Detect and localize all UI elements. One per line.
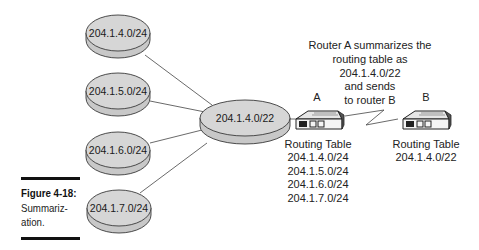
summary-annotation: Router A summarizes the routing table as… [309, 39, 432, 106]
router-a-label: A [313, 91, 321, 103]
link-net3 [150, 130, 202, 143]
route-entry: 204.1.7.0/24 [287, 192, 348, 204]
network-label: 204.1.7.0/24 [90, 202, 149, 214]
route-entry: 204.1.5.0/24 [287, 165, 348, 177]
summary-network-disk: 204.1.4.0/22 [200, 100, 290, 144]
network-label: 204.1.4.0/24 [89, 27, 148, 39]
router-a-routing-table: Routing Table 204.1.4.0/24 204.1.5.0/24 … [284, 138, 351, 204]
network-disk: 204.1.6.0/24 [86, 132, 150, 175]
figure-caption-text: Summariz- ation. [21, 201, 68, 229]
routing-table-title: Routing Table [392, 138, 459, 150]
router-b-icon [403, 111, 451, 129]
router-b-routing-table: Routing Table 204.1.4.0/22 [392, 138, 459, 163]
summary-network-label: 204.1.4.0/22 [216, 112, 275, 124]
routing-table-title: Routing Table [284, 138, 351, 150]
svg-text:routing table as: routing table as [332, 53, 408, 65]
network-disk: 204.1.4.0/24 [86, 15, 150, 58]
route-entry: 204.1.4.0/24 [287, 151, 348, 163]
router-b-label: B [422, 91, 429, 103]
svg-text:Router A summarizes the: Router A summarizes the [309, 39, 432, 51]
figure-caption-title: Figure 4-18: [21, 187, 76, 199]
network-disk: 204.1.5.0/24 [86, 73, 150, 116]
link-net1 [145, 55, 212, 105]
route-entry: 204.1.4.0/22 [395, 151, 456, 163]
network-label: 204.1.6.0/24 [89, 144, 148, 156]
route-entry: 204.1.6.0/24 [287, 178, 348, 190]
network-disk: 204.1.7.0/24 [87, 190, 151, 233]
caption-divider-bottom [21, 237, 80, 240]
network-label: 204.1.5.0/24 [89, 85, 148, 97]
svg-text:and sends: and sends [345, 80, 396, 92]
summarization-diagram: 204.1.4.0/24 204.1.5.0/24 204.1.6.0/24 2… [0, 0, 479, 250]
caption-divider-top [21, 177, 80, 180]
svg-text:204.1.4.0/22: 204.1.4.0/22 [339, 67, 400, 79]
router-a-icon [296, 111, 344, 129]
svg-text:to router B: to router B [344, 94, 395, 106]
link-net2 [150, 101, 205, 112]
wan-link [345, 110, 398, 125]
